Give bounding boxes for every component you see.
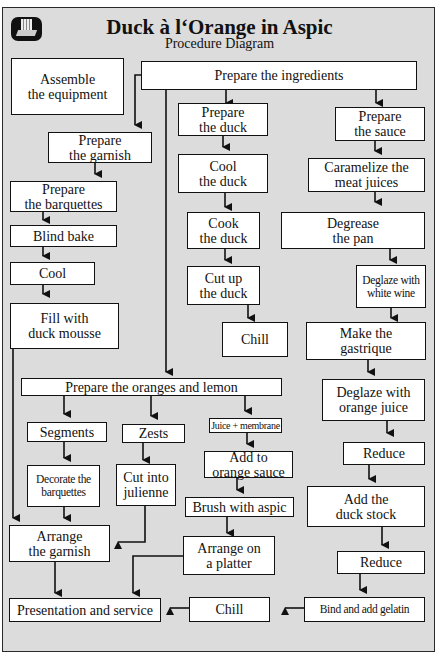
step-make-gastrique: Make the gastrique [306, 322, 426, 360]
step-segments: Segments [27, 422, 107, 442]
step-arrange-platter: Arrange on a platter [183, 536, 275, 575]
step-prepare-duck: Prepare the duck [178, 103, 268, 136]
step-deglaze-white-wine: Deglaze with white wine [356, 265, 426, 308]
step-cut-julienne: Cut into julienne [116, 464, 176, 506]
step-chill-duck: Chill [222, 322, 288, 357]
step-prepare-barquettes: Prepare the barquettes [10, 181, 117, 212]
step-add-duck-stock: Add the duck stock [307, 486, 425, 527]
step-zests: Zests [122, 424, 185, 443]
step-blind-bake: Blind bake [10, 225, 117, 247]
step-prepare-garnish: Prepare the garnish [48, 132, 152, 163]
step-brush-aspic: Brush with aspic [185, 497, 294, 517]
step-caramelize-juices: Caramelize the meat juices [308, 158, 425, 192]
step-add-orange-sauce: Add to orange sauce [204, 451, 293, 478]
step-cool-duck: Cool the duck [178, 154, 268, 193]
step-fill-duck-mousse: Fill with duck mousse [10, 303, 119, 349]
step-cut-duck: Cut up the duck [187, 266, 260, 305]
step-prepare-ingredients: Prepare the ingredients [141, 61, 417, 90]
step-bind-gelatin: Bind and add gelatin [304, 597, 425, 622]
step-prepare-oranges-lemon: Prepare the oranges and lemon [21, 378, 282, 396]
step-arrange-garnish: Arrange the garnish [9, 525, 110, 562]
step-assemble-equipment: Assemble the equipment [11, 58, 124, 115]
step-juice-membrane: Juice + membrane [209, 418, 282, 433]
step-reduce-2: Reduce [337, 551, 425, 574]
step-presentation-service: Presentation and service [9, 598, 161, 622]
step-decorate-barquettes: Decorate the barquettes [27, 465, 100, 507]
step-chill-final: Chill [189, 597, 270, 622]
step-cook-duck: Cook the duck [187, 212, 260, 249]
step-deglaze-orange-juice: Deglaze with orange juice [322, 379, 425, 421]
step-cool: Cool [10, 262, 95, 285]
step-degrease-pan: Degrease the pan [281, 212, 425, 249]
step-reduce-1: Reduce [343, 442, 425, 465]
step-prepare-sauce: Prepare the sauce [335, 107, 425, 141]
